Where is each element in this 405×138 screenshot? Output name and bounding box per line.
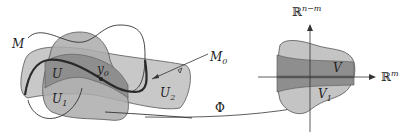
- label-m: M: [11, 37, 25, 51]
- axis-vertical-arrowhead: [307, 24, 313, 31]
- label-u: U: [52, 67, 63, 81]
- label-m0: M0: [209, 50, 227, 66]
- diagram-canvas: M M0 U U1 U2 y0 Φ ℝn−m ℝm V V1: [0, 0, 405, 138]
- axis-horizontal-arrowhead: [369, 74, 376, 80]
- label-rm: ℝm: [381, 69, 399, 84]
- label-rnm: ℝn−m: [292, 4, 322, 19]
- label-v: V: [333, 61, 343, 75]
- point-y0: [99, 77, 103, 81]
- label-phi: Φ: [215, 101, 225, 115]
